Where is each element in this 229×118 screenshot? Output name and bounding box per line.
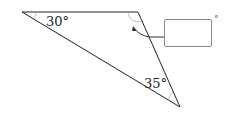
arrow-head-icon — [132, 26, 137, 31]
triangle-diagram: 30° 35° — [0, 0, 229, 118]
angle-label-30: 30° — [46, 14, 69, 29]
angle-arc-35 — [169, 92, 174, 100]
degree-unit: ° — [214, 14, 219, 24]
answer-input-box[interactable] — [164, 19, 212, 47]
angle-arc-30 — [35, 12, 37, 19]
angle-label-35: 35° — [144, 76, 167, 91]
